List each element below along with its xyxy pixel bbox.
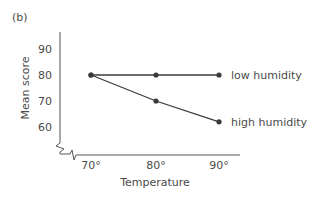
x-axis-label: Temperature bbox=[119, 176, 190, 189]
data-point bbox=[88, 72, 93, 77]
data-point bbox=[153, 72, 158, 77]
series-label: low humidity bbox=[231, 69, 302, 82]
x-tick-label: 90° bbox=[209, 159, 229, 172]
x-tick-label: 80° bbox=[146, 159, 166, 172]
x-tick-label: 70° bbox=[81, 159, 101, 172]
series-line bbox=[91, 75, 219, 122]
y-tick-label: 60 bbox=[38, 121, 52, 134]
data-point bbox=[216, 119, 221, 124]
y-tick-label: 90 bbox=[38, 43, 52, 56]
series-label: high humidity bbox=[231, 116, 308, 129]
series-group: low humidityhigh humidity bbox=[88, 69, 307, 129]
x-tick-labels: 70°80°90° bbox=[81, 159, 229, 172]
data-point bbox=[216, 72, 221, 77]
y-axis-label: Mean score bbox=[19, 56, 32, 119]
panel-label: (b) bbox=[12, 11, 28, 24]
line-chart: (b) 60708090 Mean score 70°80°90° Temper… bbox=[0, 0, 322, 206]
y-tick-label: 80 bbox=[38, 69, 52, 82]
y-tick-labels: 60708090 bbox=[38, 43, 52, 134]
data-point bbox=[153, 98, 158, 103]
y-tick-label: 70 bbox=[38, 95, 52, 108]
axis-break-icon bbox=[56, 143, 240, 160]
